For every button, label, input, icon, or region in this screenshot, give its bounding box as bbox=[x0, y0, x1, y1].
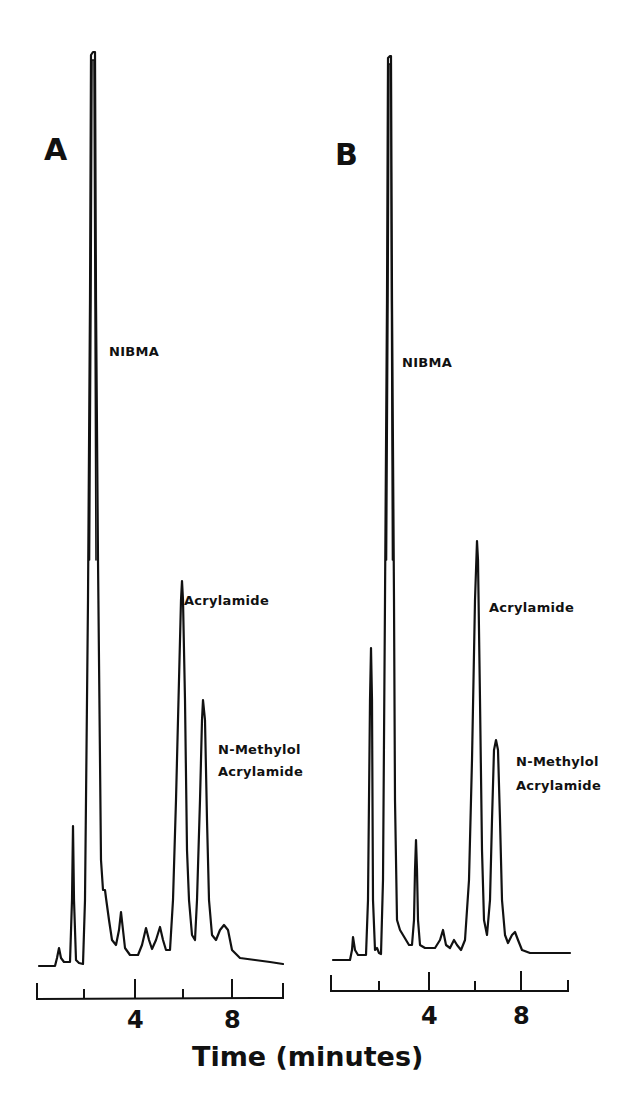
panel-b-label-nma-2: Acrylamide bbox=[516, 778, 601, 793]
panel-a-label-acrylamide: Acrylamide bbox=[184, 593, 269, 608]
panel-b-trace bbox=[333, 56, 570, 960]
panel-b-tick-8: 8 bbox=[513, 1002, 530, 1030]
panel-b: B NIBMA Acrylamide N-Methylol Acrylamide… bbox=[331, 56, 601, 1030]
panel-b-label-nibma: NIBMA bbox=[402, 355, 452, 370]
panel-b-tick-4: 4 bbox=[421, 1002, 438, 1030]
panel-a-trace bbox=[39, 52, 283, 966]
x-axis-title: Time (minutes) bbox=[192, 1041, 423, 1072]
panel-a-label-nma-2: Acrylamide bbox=[218, 764, 303, 779]
panel-b-letter: B bbox=[335, 137, 358, 172]
panel-a-letter: A bbox=[44, 132, 68, 167]
panel-b-label-acrylamide: Acrylamide bbox=[489, 600, 574, 615]
panel-b-label-nma-1: N-Methylol bbox=[516, 754, 599, 769]
cutoff-caption bbox=[0, 1104, 642, 1115]
panel-a-label-nma-1: N-Methylol bbox=[218, 742, 301, 757]
panel-a-tick-4: 4 bbox=[127, 1006, 144, 1034]
panel-b-x-axis: 4 8 bbox=[331, 971, 568, 1030]
panel-a: A NIBMA Acrylamide N-Methylol Acrylamide… bbox=[37, 52, 303, 1034]
panel-a-label-nibma: NIBMA bbox=[109, 344, 159, 359]
chromatogram-figure: A NIBMA Acrylamide N-Methylol Acrylamide… bbox=[0, 0, 642, 1115]
panel-a-tick-8: 8 bbox=[224, 1006, 241, 1034]
panel-a-x-axis: 4 8 bbox=[37, 979, 283, 1034]
